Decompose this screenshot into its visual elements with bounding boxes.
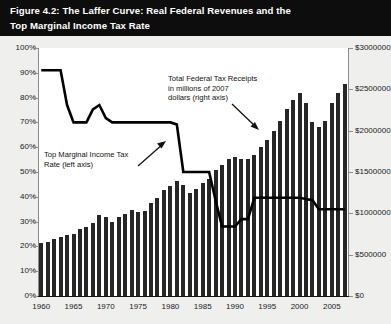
x-axis-tick-label: 1995 (252, 303, 282, 311)
figure-title-line-1: Figure 4.2: The Laffer Curve: Real Feder… (10, 3, 381, 18)
y-axis-right-tick-mark (349, 255, 353, 256)
x-axis-tick-label: 2000 (285, 303, 315, 311)
top-marginal-rate-polyline (41, 70, 345, 226)
y-axis-left-tick-label: 0% (0, 292, 36, 300)
y-axis-left-tick-label: 10% (0, 267, 36, 275)
x-axis-tick-label: 2005 (317, 303, 347, 311)
y-axis-left-tick-label: 20% (0, 242, 36, 250)
x-axis-tick-label: 1980 (155, 303, 185, 311)
y-axis-left-tick-label: 50% (0, 168, 36, 176)
y-axis-left-tick-label: 70% (0, 118, 36, 126)
y-axis-left-tick-label: 80% (0, 94, 36, 102)
y-axis-right-tick-label: $2000000 (355, 127, 391, 135)
figure-title-bar: Figure 4.2: The Laffer Curve: Real Feder… (0, 0, 391, 36)
y-axis-left-tick-label: 30% (0, 218, 36, 226)
line-series-top-marginal-rate (38, 48, 348, 296)
y-axis-left-tick-label: 40% (0, 193, 36, 201)
y-axis-right-tick-mark (349, 213, 353, 214)
x-axis-tick-label: 1970 (91, 303, 121, 311)
y-axis-right-tick-mark (349, 48, 353, 49)
y-axis-right-tick-label: $2500000 (355, 85, 391, 93)
x-axis-tick-label: 1990 (220, 303, 250, 311)
y-axis-right-tick-mark (349, 89, 353, 90)
y-axis-right-tick-label: $1500000 (355, 168, 391, 176)
x-axis (38, 296, 349, 297)
figure-title-line-2: Top Marginal Income Tax Rate (10, 18, 381, 33)
y-axis-right-tick-label: $3000000 (355, 44, 391, 52)
y-axis-left-tick-mark (34, 296, 38, 297)
y-axis-right-tick-mark (349, 172, 353, 173)
y-axis-right-tick-label: $0 (355, 292, 391, 300)
x-axis-tick-label: 1985 (188, 303, 218, 311)
figure-container: Figure 4.2: The Laffer Curve: Real Feder… (0, 0, 391, 324)
line-series-svg (38, 48, 348, 296)
y-axis-right-tick-mark (349, 131, 353, 132)
y-axis-right-tick-mark (349, 296, 353, 297)
y-axis-left-tick-label: 100% (0, 44, 36, 52)
x-axis-tick-label: 1975 (123, 303, 153, 311)
x-axis-tick-label: 1965 (59, 303, 89, 311)
y-axis-left-tick-label: 90% (0, 69, 36, 77)
y-axis-right-tick-label: $500000 (355, 251, 391, 259)
y-axis-right-tick-label: $1000000 (355, 209, 391, 217)
x-axis-tick-label: 1960 (26, 303, 56, 311)
y-axis-left-tick-label: 60% (0, 143, 36, 151)
